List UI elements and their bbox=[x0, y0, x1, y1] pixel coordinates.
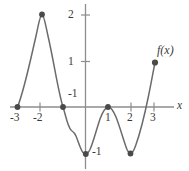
function-graph-figure: -3 -2 -1 1 2 3 2 1 -1 x f(x) bbox=[0, 0, 189, 171]
x-tick-label-two: 2 bbox=[127, 112, 133, 124]
point-neg1-0 bbox=[60, 104, 66, 110]
y-tick-label-minus1: -1 bbox=[92, 146, 102, 158]
point-neg2-2 bbox=[39, 12, 45, 18]
point-3-1 bbox=[152, 59, 158, 65]
function-curve bbox=[18, 15, 156, 155]
x-tick-label-minus3: -3 bbox=[10, 112, 20, 124]
point-1-0 bbox=[105, 104, 111, 110]
x-tick-label-one: 1 bbox=[105, 112, 111, 124]
curve-label-fx: f(x) bbox=[157, 44, 174, 56]
y-tick-label-one: 1 bbox=[68, 56, 74, 68]
y-tick-label-two: 2 bbox=[68, 9, 74, 21]
point-2-neg1 bbox=[128, 151, 134, 157]
point-0-neg1 bbox=[83, 151, 89, 157]
x-axis-label: x bbox=[177, 100, 182, 112]
x-tick-label-three: 3 bbox=[150, 112, 156, 124]
x-tick-label-minus2: -2 bbox=[33, 112, 43, 124]
x-tick-label-minus1: -1 bbox=[68, 88, 78, 100]
point-neg3-0 bbox=[15, 104, 21, 110]
